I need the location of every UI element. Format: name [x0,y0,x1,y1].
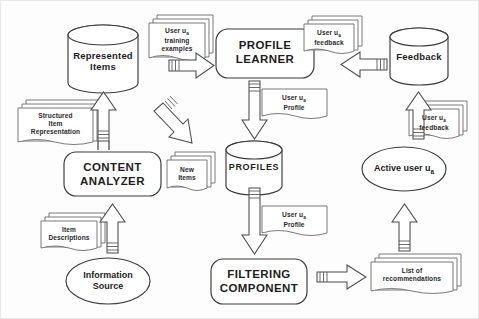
arrow-recommendations-to-active-user [392,204,417,251]
active-user-ellipse [362,147,446,191]
doc-user-profile-bottom [262,206,327,236]
doc-new-items [167,152,215,191]
profile-learner-box [216,29,314,78]
information-source-ellipse [66,258,150,304]
profiles-cylinder [226,141,282,195]
arrow-represented-items-to-content-analyzer [98,141,109,150]
represented-items-cylinder [68,25,138,93]
filtering-component-box [211,259,307,304]
doc-list-of-recommendations [371,254,461,294]
doc-item-descriptions [41,213,105,251]
arrow-feedback-to-profile-learner [341,52,387,77]
doc-training-examples [149,15,213,61]
doc-user-profile-top [262,89,327,119]
doc-structured-item-representation [18,100,101,145]
feedback-cylinder [390,28,448,85]
diagram-shapes: .s { fill:#ffffff; stroke:#3a3a3a; strok… [0,0,479,319]
arrow-filtering-to-recommendations [317,265,366,289]
content-analyzer-box [64,152,161,196]
diagram-canvas: .s { fill:#ffffff; stroke:#3a3a3a; strok… [0,0,479,319]
doc-feedback-top [304,16,362,54]
arrow-content-analyzer-to-profiles [154,96,192,143]
